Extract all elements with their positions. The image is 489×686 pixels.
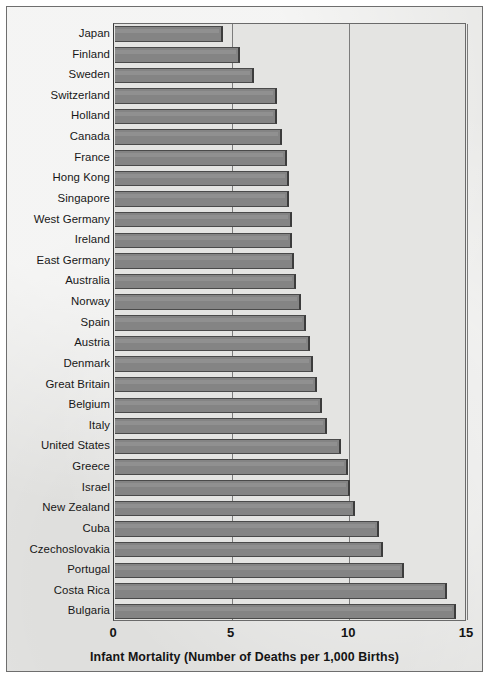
bar-highlight bbox=[115, 421, 323, 425]
bar bbox=[115, 274, 296, 290]
bar-highlight bbox=[115, 607, 452, 611]
bar-fill bbox=[115, 26, 223, 42]
category-label: Cuba bbox=[10, 518, 110, 539]
category-label: Canada bbox=[10, 126, 110, 147]
bar bbox=[115, 233, 292, 249]
bar bbox=[115, 459, 348, 475]
bar-highlight bbox=[115, 483, 346, 487]
category-label: Norway bbox=[10, 291, 110, 312]
bar-highlight bbox=[115, 194, 285, 198]
category-label: Singapore bbox=[10, 188, 110, 209]
plot-area bbox=[113, 23, 466, 621]
bar-highlight bbox=[115, 91, 273, 95]
category-label: Sweden bbox=[10, 64, 110, 85]
bar-fill bbox=[115, 191, 289, 207]
bar-highlight bbox=[115, 277, 292, 281]
bar bbox=[115, 501, 355, 517]
bar-highlight bbox=[115, 318, 302, 322]
bar-highlight bbox=[115, 174, 285, 178]
category-label: Holland bbox=[10, 105, 110, 126]
bar-highlight bbox=[115, 112, 273, 116]
bar bbox=[115, 583, 447, 599]
bar bbox=[115, 315, 306, 331]
bar-highlight bbox=[115, 566, 400, 570]
category-label: Australia bbox=[10, 270, 110, 291]
chart-figure: JapanFinlandSwedenSwitzerlandHollandCana… bbox=[0, 0, 489, 686]
bar-highlight bbox=[115, 545, 379, 549]
bar-fill bbox=[115, 356, 313, 372]
bar-series bbox=[114, 24, 465, 620]
category-label: Portugal bbox=[10, 559, 110, 580]
x-axis-ticks: 051015 bbox=[113, 625, 466, 645]
category-label: Israel bbox=[10, 477, 110, 498]
bar-highlight bbox=[115, 339, 306, 343]
bar-fill bbox=[115, 171, 289, 187]
category-label: Denmark bbox=[10, 353, 110, 374]
bar-highlight bbox=[115, 236, 288, 240]
bar bbox=[115, 212, 292, 228]
bar-highlight bbox=[115, 442, 337, 446]
bar bbox=[115, 253, 294, 269]
bar-fill bbox=[115, 109, 277, 125]
bar-fill bbox=[115, 68, 254, 84]
category-label: Italy bbox=[10, 415, 110, 436]
bar bbox=[115, 47, 240, 63]
category-axis-labels: JapanFinlandSwedenSwitzerlandHollandCana… bbox=[7, 23, 110, 621]
bar-fill bbox=[115, 212, 292, 228]
bar bbox=[115, 521, 379, 537]
category-label: Greece bbox=[10, 456, 110, 477]
bar bbox=[115, 26, 223, 42]
bar-highlight bbox=[115, 256, 290, 260]
bar-highlight bbox=[115, 50, 236, 54]
bar-fill bbox=[115, 604, 456, 620]
bar bbox=[115, 604, 456, 620]
bar-fill bbox=[115, 150, 287, 166]
bar-highlight bbox=[115, 462, 344, 466]
x-axis-title: Infant Mortality (Number of Deaths per 1… bbox=[7, 650, 482, 664]
bar bbox=[115, 563, 404, 579]
bar-highlight bbox=[115, 29, 219, 33]
x-tick-label: 15 bbox=[459, 625, 473, 640]
bar-highlight bbox=[115, 586, 443, 590]
bar-highlight bbox=[115, 524, 375, 528]
bar bbox=[115, 480, 350, 496]
bar bbox=[115, 356, 313, 372]
bar-fill bbox=[115, 294, 301, 310]
x-tick-label: 10 bbox=[341, 625, 355, 640]
bar-fill bbox=[115, 88, 277, 104]
bar bbox=[115, 171, 289, 187]
category-label: Czechoslovakia bbox=[10, 539, 110, 560]
category-label: West Germany bbox=[10, 209, 110, 230]
bar-fill bbox=[115, 253, 294, 269]
category-label: Great Britain bbox=[10, 374, 110, 395]
bar-fill bbox=[115, 439, 341, 455]
category-label: Spain bbox=[10, 312, 110, 333]
bar-fill bbox=[115, 563, 404, 579]
gridline-15 bbox=[467, 24, 468, 620]
x-tick-label: 5 bbox=[227, 625, 234, 640]
bar-fill bbox=[115, 501, 355, 517]
bar bbox=[115, 439, 341, 455]
bar-fill bbox=[115, 129, 282, 145]
bar-fill bbox=[115, 542, 383, 558]
category-label: East Germany bbox=[10, 250, 110, 271]
bar-fill bbox=[115, 480, 350, 496]
bar bbox=[115, 542, 383, 558]
figure-frame: JapanFinlandSwedenSwitzerlandHollandCana… bbox=[6, 6, 483, 672]
bar-fill bbox=[115, 459, 348, 475]
bar bbox=[115, 88, 277, 104]
bar bbox=[115, 336, 310, 352]
bar-highlight bbox=[115, 215, 288, 219]
bar bbox=[115, 294, 301, 310]
bar-highlight bbox=[115, 132, 278, 136]
bar-fill bbox=[115, 377, 317, 393]
bar-highlight bbox=[115, 153, 283, 157]
bar bbox=[115, 68, 254, 84]
category-label: New Zealand bbox=[10, 497, 110, 518]
bar-fill bbox=[115, 398, 322, 414]
bar bbox=[115, 191, 289, 207]
category-label: United States bbox=[10, 435, 110, 456]
category-label: Japan bbox=[10, 23, 110, 44]
bar bbox=[115, 109, 277, 125]
bar-highlight bbox=[115, 380, 313, 384]
